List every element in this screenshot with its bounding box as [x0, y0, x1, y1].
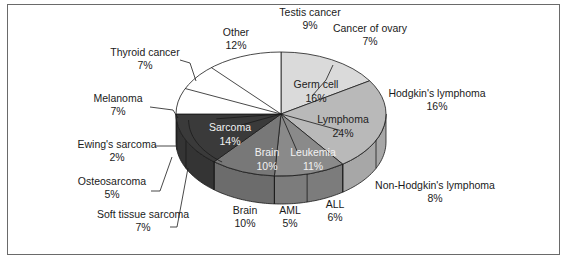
inner-value-brain: 10% — [256, 160, 277, 172]
inner-value-lymphoma: 24% — [332, 127, 353, 139]
leader-osteosarcoma — [151, 157, 172, 191]
outer-label-soft-tissue-sarcoma: Soft tissue sarcoma — [97, 208, 189, 220]
outer-value-melanoma: 7% — [110, 105, 125, 117]
slice-other-group — [176, 52, 281, 114]
outer-label-non-hodgkin-s-lymphoma: Non-Hodgkin's lymphoma — [375, 179, 495, 191]
leader-melanoma — [150, 107, 178, 118]
outer-value-brain: 10% — [234, 217, 255, 229]
inner-value-sarcoma: 14% — [219, 135, 240, 147]
outer-label-cancer-of-ovary: Cancer of ovary — [333, 22, 408, 34]
outer-value-hodgkin-s-lymphoma: 16% — [426, 100, 447, 112]
outer-label-brain: Brain — [233, 204, 258, 216]
outer-label-aml: AML — [279, 204, 301, 216]
inner-label-brain: Brain — [255, 146, 280, 158]
leader-thyroid-cancer — [180, 60, 196, 81]
outer-value-osteosarcoma: 5% — [104, 188, 119, 200]
outer-value-ewing-s-sarcoma: 2% — [109, 151, 124, 163]
outer-label-hodgkin-s-lymphoma: Hodgkin's lymphoma — [388, 87, 485, 99]
pie-chart: Germ cell16%Lymphoma24%Leukemia11%Brain1… — [0, 0, 567, 263]
outer-value-cancer-of-ovary: 7% — [362, 35, 377, 47]
outer-label-melanoma: Melanoma — [93, 92, 142, 104]
outer-label-osteosarcoma: Osteosarcoma — [78, 175, 146, 187]
outer-value-non-hodgkin-s-lymphoma: 8% — [427, 192, 442, 204]
outer-label-all: ALL — [326, 198, 345, 210]
outer-value-aml: 5% — [282, 217, 297, 229]
inner-label-germ-cell: Germ cell — [294, 78, 339, 90]
inner-label-lymphoma: Lymphoma — [317, 113, 369, 125]
outer-value-testis-cancer: 9% — [302, 19, 317, 31]
outer-value-soft-tissue-sarcoma: 7% — [135, 221, 150, 233]
outer-label-testis-cancer: Testis cancer — [279, 6, 341, 18]
inner-value-leukemia: 11% — [303, 160, 323, 172]
outer-value-other: 12% — [225, 39, 246, 51]
outer-label-ewing-s-sarcoma: Ewing's sarcoma — [77, 138, 156, 150]
outer-label-thyroid-cancer: Thyroid cancer — [110, 46, 180, 58]
inner-label-sarcoma: Sarcoma — [209, 121, 251, 133]
outer-value-all: 6% — [327, 211, 342, 223]
inner-value-germ-cell: 16% — [305, 92, 326, 104]
inner-label-leukemia: Leukemia — [290, 146, 336, 158]
outer-value-thyroid-cancer: 7% — [137, 59, 152, 71]
outer-label-other: Other — [223, 26, 250, 38]
